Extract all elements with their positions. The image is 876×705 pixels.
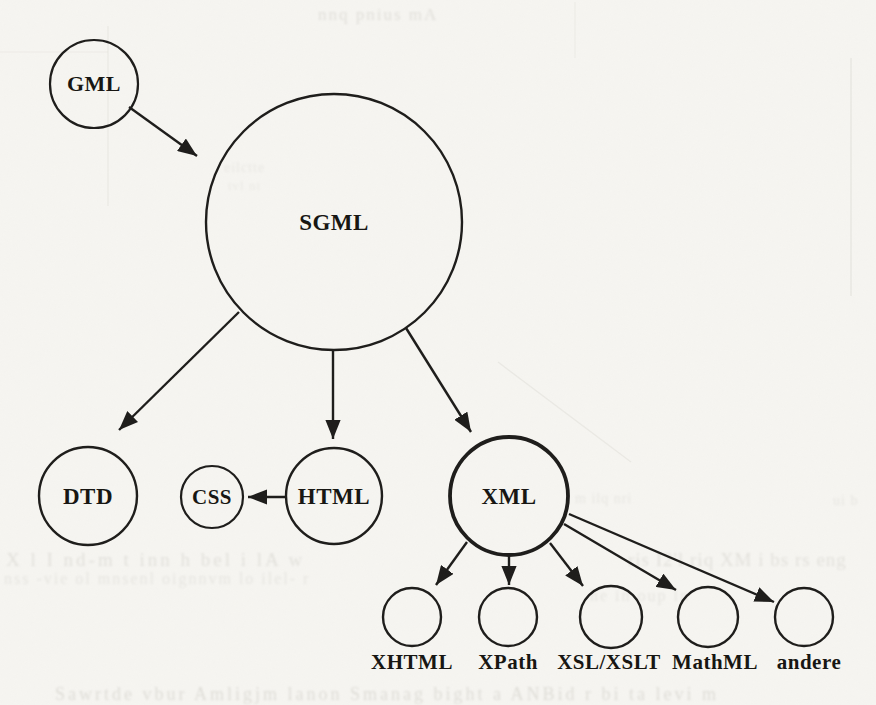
bleedthrough-text-2: tvl ni <box>228 178 261 193</box>
node-caption-xpath: XPath <box>478 650 538 674</box>
node-label-xml: XML <box>481 484 536 509</box>
bleedthrough-text-0: nnq pnius mA <box>318 5 438 24</box>
node-caption-xhtml: XHTML <box>371 650 453 674</box>
bleedthrough-text-3: X l I nd-m t inn h bel i lA w <box>6 549 305 570</box>
node-label-html: HTML <box>298 484 370 509</box>
bleedthrough-text-1: eilctte <box>224 160 265 175</box>
node-label-sgml: SGML <box>299 210 369 235</box>
node-caption-andere: andere <box>777 650 841 674</box>
markup-languages-diagram: Scanned book figure: evolution diagram o… <box>0 0 876 705</box>
bleedthrough-text-8: ui b <box>833 493 858 508</box>
node-caption-mathml: MathML <box>672 650 758 674</box>
bleedthrough-text-7: m ilq nri <box>575 491 632 506</box>
node-label-dtd: DTD <box>63 484 113 509</box>
bleedthrough-text-9: Sawrtde vbur Amligjm lanon Smanag bight … <box>55 684 719 704</box>
bleedthrough-text-4: nss -vie ol mnsenl oignnvm lo ilel- r <box>4 570 310 588</box>
node-label-css: CSS <box>192 485 232 509</box>
node-caption-xsl-xslt: XSL/XSLT <box>557 650 661 674</box>
scanned-book-page: Scanned book figure: evolution diagram o… <box>0 0 876 705</box>
node-label-gml: GML <box>67 71 121 96</box>
